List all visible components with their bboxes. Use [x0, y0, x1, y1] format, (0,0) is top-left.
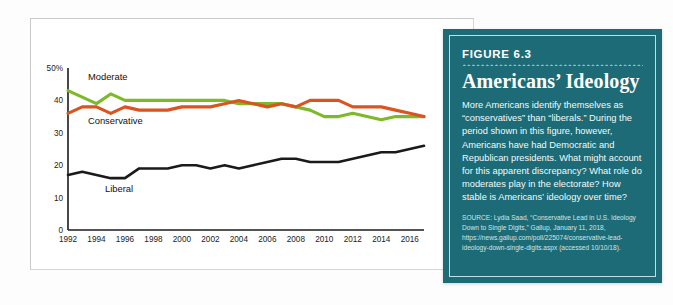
- figure-number-label: FIGURE 6.3: [462, 48, 643, 60]
- figure-source-citation: SOURCE: Lydia Saad, “Conservative Lead i…: [462, 213, 643, 253]
- x-tick-2012: 2012: [344, 235, 363, 244]
- x-tick-1992: 1992: [59, 235, 78, 244]
- x-tick-2004: 2004: [230, 235, 249, 244]
- x-tick-2006: 2006: [258, 235, 277, 244]
- x-tick-2000: 2000: [173, 235, 192, 244]
- x-tick-2014: 2014: [372, 235, 391, 244]
- series-label-conservative: Conservative: [88, 115, 143, 126]
- y-tick-50%: 50%: [47, 64, 63, 73]
- x-tick-1996: 1996: [116, 235, 135, 244]
- y-axis-tick-labels: 01020304050%: [47, 64, 64, 235]
- y-tick-10: 10: [54, 194, 64, 203]
- y-tick-30: 30: [54, 129, 64, 138]
- series-lines: [68, 91, 424, 178]
- x-tick-2016: 2016: [401, 235, 420, 244]
- figure-panel-inner-border: FIGURE 6.3 Americans’ Ideology More Amer…: [449, 35, 656, 277]
- ideology-line-chart: 01020304050% 199219941996199820002002200…: [30, 60, 430, 260]
- figure-callout-panel: FIGURE 6.3 Americans’ Ideology More Amer…: [443, 29, 662, 283]
- series-label-moderate: Moderate: [88, 71, 128, 82]
- y-tick-0: 0: [58, 226, 63, 235]
- x-tick-2008: 2008: [287, 235, 306, 244]
- x-tick-2010: 2010: [315, 235, 334, 244]
- figure-title: Americans’ Ideology: [462, 71, 643, 92]
- figure-description-text: More Americans identify themselves as “c…: [462, 99, 643, 205]
- series-line-conservative: [68, 100, 424, 116]
- y-tick-20: 20: [54, 161, 64, 170]
- x-tick-1994: 1994: [87, 235, 106, 244]
- y-tick-40: 40: [54, 96, 64, 105]
- x-tick-2002: 2002: [201, 235, 220, 244]
- series-label-liberal: Liberal: [105, 183, 133, 194]
- series-line-liberal: [68, 146, 424, 178]
- dotted-rule-divider: [462, 63, 643, 66]
- x-tick-1998: 1998: [144, 235, 163, 244]
- chart-canvas: 01020304050% 199219941996199820002002200…: [30, 60, 430, 260]
- x-axis-tick-labels: 1992199419961998200020022004200620082010…: [59, 235, 419, 244]
